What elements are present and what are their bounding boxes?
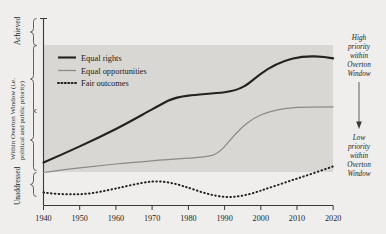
x-tick-label-1970: 1970 (144, 214, 160, 223)
x-tick-label-2000: 2000 (253, 214, 269, 223)
high-note-line-2: priority (347, 43, 371, 51)
brace-achieved (31, 19, 37, 46)
y-label-unaddressed: Unaddressed (13, 167, 22, 205)
chart-figure: 1940 1950 1960 1970 1980 1990 2000 2010 … (0, 0, 386, 234)
y-label-overton-line2: political and public priority) (18, 80, 26, 160)
x-axis-ticks (44, 206, 334, 211)
high-note-line-4: Overton (347, 61, 371, 69)
low-note-line-2: priority (347, 143, 371, 151)
annotation-low-priority: Low priority within Overton Window (347, 134, 371, 178)
brace-overton-upper (31, 46, 37, 113)
x-tick-label-1940: 1940 (35, 214, 51, 223)
annotation-high-priority: High priority within Overton Window (347, 34, 371, 78)
x-tick-label-2010: 2010 (289, 214, 305, 223)
priority-direction-arrow (356, 82, 362, 129)
legend-label-fair-outcomes: Fair outcomes (81, 79, 129, 88)
high-note-line-5: Window (347, 70, 370, 78)
high-note-line-3: within (350, 52, 368, 60)
x-tick-label-1980: 1980 (180, 214, 196, 223)
y-label-overton-line1: Within Overton Window (i.e. (9, 78, 17, 160)
high-note-line-1: High (351, 34, 367, 42)
low-note-line-1: Low (352, 134, 366, 142)
brace-overton-lower (31, 110, 37, 171)
low-note-line-5: Window (347, 170, 370, 178)
brace-unaddressed (31, 173, 37, 197)
x-tick-label-1960: 1960 (108, 214, 124, 223)
low-note-line-4: Overton (347, 161, 371, 169)
arrow-down-icon (356, 122, 362, 130)
y-label-achieved: Achieved (13, 16, 22, 45)
x-tick-label-1950: 1950 (72, 214, 88, 223)
low-note-line-3: within (350, 152, 368, 160)
legend-label-equal-opportunities: Equal opportunities (81, 67, 147, 76)
chart-svg: 1940 1950 1960 1970 1980 1990 2000 2010 … (0, 0, 386, 234)
x-tick-label-1990: 1990 (216, 214, 232, 223)
legend-label-equal-rights: Equal rights (81, 54, 122, 63)
x-tick-label-2020: 2020 (325, 214, 341, 223)
